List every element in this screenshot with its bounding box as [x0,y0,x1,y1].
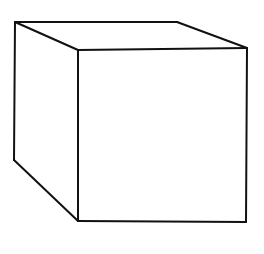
cube-line-drawing: Black outline line drawing of a three-di… [0,0,264,254]
cube-front-face [78,48,247,222]
cube-edge-left-back-vertical [14,22,15,160]
figure-canvas: Black outline line drawing of a three-di… [0,0,264,254]
cube-edge-front-bottom [78,221,246,222]
cube-edge-front-right-vertical [246,48,247,222]
